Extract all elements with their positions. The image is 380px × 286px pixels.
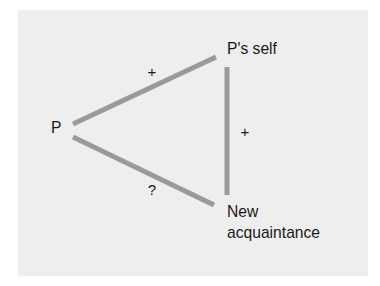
node-new-acquaintance-line2: acquaintance	[227, 223, 320, 243]
diagram-edges	[0, 0, 380, 286]
node-p: P	[51, 118, 61, 138]
sign-self-to-acquaintance: +	[237, 124, 253, 140]
sign-p-to-acquaintance: ?	[144, 182, 160, 198]
node-ps-self: P's self	[227, 39, 277, 59]
node-new-acquaintance-line1: New	[227, 202, 258, 222]
sign-p-to-self: +	[144, 64, 160, 80]
